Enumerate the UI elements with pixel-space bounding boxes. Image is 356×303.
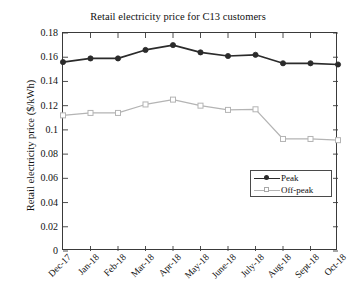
data-point [336,138,341,143]
x-tick-label: Sept-18 [293,252,321,280]
legend-swatch-peak [253,173,281,184]
data-point [253,52,258,57]
x-tick-label: May-18 [182,252,210,280]
chart-legend: Peak Off-peak [250,170,332,197]
data-point [61,113,66,118]
data-point [116,110,121,115]
data-point [143,102,148,107]
data-point [170,43,175,48]
x-tick-label: Jan-18 [76,252,101,277]
legend-label-peak: Peak [281,173,299,184]
series-svg [63,33,338,251]
chart-title: Retail electricity price for C13 custome… [0,11,356,22]
data-point [225,53,230,58]
y-tick-label: 0 [2,245,58,256]
x-tick-label: Aug-18 [265,252,293,280]
data-point [308,61,313,66]
open-square-icon [264,187,269,192]
data-point [335,62,340,67]
y-axis-tick-labels: 00.020.040.060.080.10.120.140.160.18 [0,32,58,250]
data-point [88,56,93,61]
data-point [171,97,176,102]
legend-swatch-off-peak [253,185,281,196]
data-point [143,47,148,52]
data-point [198,103,203,108]
y-tick-label: 0.18 [2,27,58,38]
data-point [226,107,231,112]
data-point [253,107,258,112]
x-tick-label: Oct-18 [322,252,348,278]
x-axis-tick-labels: Dec-17Jan-18Feb-18Mar-18Apr-18May-18June… [62,250,337,303]
x-tick-label: Feb-18 [102,252,128,278]
data-point [281,136,286,141]
legend-label-off-peak: Off-peak [281,185,313,196]
x-tick-label: Mar-18 [128,252,155,279]
y-tick-label: 0.02 [2,220,58,231]
y-tick-label: 0.1 [2,123,58,134]
data-point [308,136,313,141]
legend-item-off-peak: Off-peak [253,184,329,196]
y-tick-label: 0.04 [2,196,58,207]
data-point [115,56,120,61]
legend-item-peak: Peak [253,172,329,184]
x-tick-label: Apr-18 [157,252,183,278]
y-tick-label: 0.06 [2,172,58,183]
plot-area [62,32,337,250]
x-tick-label: Dec-17 [46,252,73,279]
x-tick-label: June-18 [210,252,238,280]
data-point [88,110,93,115]
data-point [60,59,65,64]
filled-circle-icon [264,175,269,180]
y-tick-label: 0.12 [2,99,58,110]
data-point [280,61,285,66]
y-tick-label: 0.08 [2,148,58,159]
y-tick-label: 0.16 [2,51,58,62]
chart-figure: Retail electricity price for C13 custome… [0,0,356,303]
data-point [198,50,203,55]
y-tick-label: 0.14 [2,75,58,86]
x-tick-label: July-18 [238,252,265,279]
